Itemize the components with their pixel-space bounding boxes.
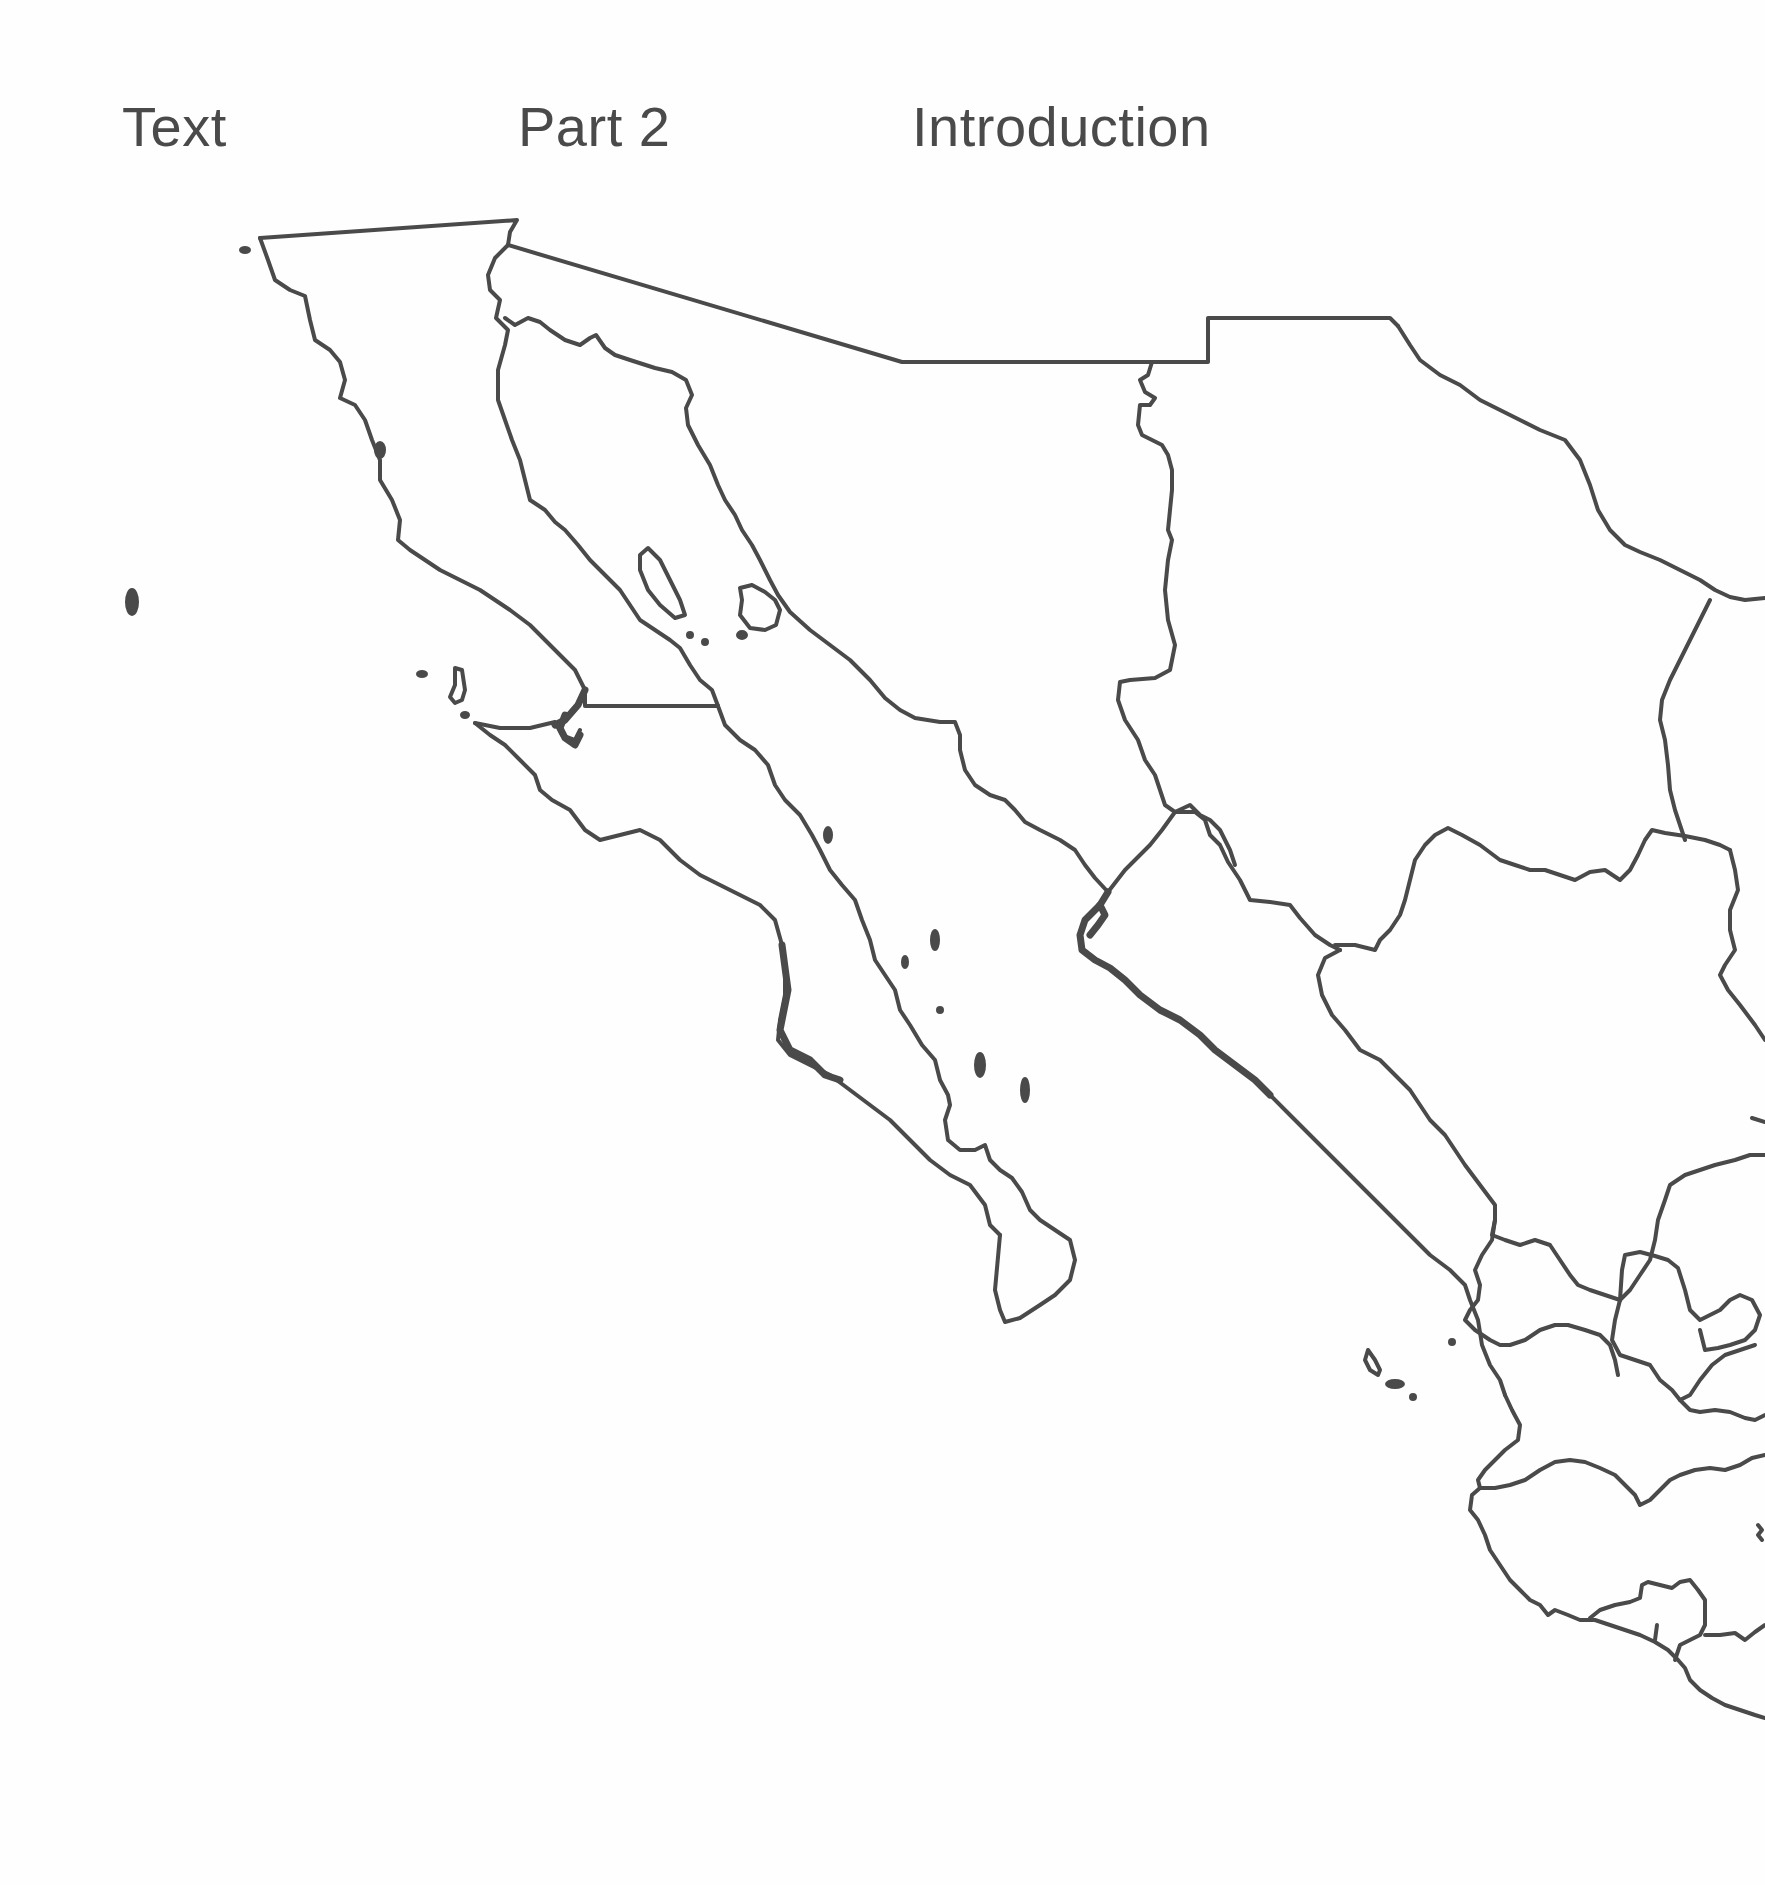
durango-chihuahua-border-east <box>1335 828 1730 950</box>
tres-marias-island <box>1365 1350 1380 1375</box>
baja-california-sur-west-coast <box>475 723 1000 1235</box>
coahuila-east-border <box>1720 850 1765 1040</box>
aguascalientes-outline <box>1612 1300 1755 1400</box>
san-marcos-island <box>824 827 832 843</box>
jalisco-coast-north <box>1478 1395 1520 1488</box>
colima-outline <box>1590 1580 1705 1660</box>
maria-cleofas-island <box>1410 1394 1416 1400</box>
carmen-island <box>931 930 939 950</box>
right-edge-fragment-1 <box>1758 1525 1762 1540</box>
sonora-chihuahua-border <box>1118 362 1175 812</box>
natividad-island <box>461 712 469 718</box>
isla-tortuga <box>737 631 747 639</box>
sinaloa-durango-border-south <box>1318 950 1495 1220</box>
colima-spur <box>1655 1625 1657 1640</box>
san-lorenzo-island <box>702 639 708 645</box>
baja-california-west-coast <box>260 238 585 705</box>
coronado-islands <box>240 247 250 253</box>
us-border-baja <box>260 220 517 245</box>
right-edge-fragment-2 <box>1752 1118 1765 1122</box>
espiritu-santo-island <box>1021 1078 1029 1102</box>
durango-zacatecas-border <box>1492 1155 1765 1300</box>
michoacan-border <box>1705 1625 1765 1640</box>
baja-california-sur-east-coast <box>718 706 1075 1322</box>
san-esteban-island <box>687 632 693 638</box>
sonora-coast <box>505 318 1108 892</box>
isla-isabel <box>1449 1339 1455 1345</box>
sinaloa-coast <box>1080 892 1270 1095</box>
jalisco-zacatecas-east <box>1680 1400 1765 1420</box>
page: Text Part 2 Introduction <box>0 0 1765 1885</box>
san-benito-islands <box>417 671 427 677</box>
zacatecas-jalisco-border <box>1620 1252 1760 1350</box>
us-border-sonora-chihuahua <box>508 245 1398 362</box>
todos-santos-island <box>375 442 385 458</box>
baja-california-east-coast <box>488 245 718 706</box>
angel-de-la-guarda-island <box>740 585 780 630</box>
nayarit-coast <box>1270 1095 1505 1395</box>
tiburon-island <box>640 548 685 618</box>
maria-madre-island <box>1386 1380 1404 1388</box>
coahuila-durango-border <box>1660 600 1710 840</box>
san-jose-island <box>975 1053 985 1077</box>
monserrat-island <box>902 956 908 968</box>
jalisco-inland-border <box>1480 1455 1765 1505</box>
cedros-island <box>450 668 465 703</box>
chihuahua-coahuila-border <box>1398 326 1765 600</box>
outline-map <box>0 0 1765 1885</box>
guadalupe-island <box>126 589 138 615</box>
magdalena-bay-coast <box>780 945 840 1080</box>
santa-catalina-island <box>937 1007 943 1013</box>
sinaloa-durango-border <box>1108 812 1340 950</box>
